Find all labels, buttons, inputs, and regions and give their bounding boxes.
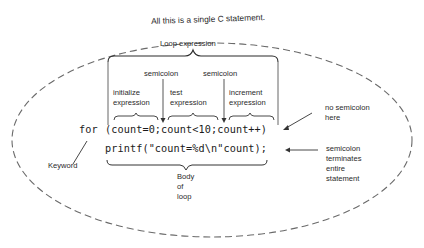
initialize-label-line2: expression bbox=[113, 98, 150, 107]
no-semicolon-arrow bbox=[286, 113, 312, 128]
loop-header-code: (count=0;count<10;count++) bbox=[105, 124, 267, 135]
terminates-label-line4: statement bbox=[326, 174, 359, 183]
increment-label-line2: expression bbox=[229, 98, 266, 107]
body-label-line2: of bbox=[177, 182, 183, 191]
for-keyword: for bbox=[79, 124, 98, 135]
terminates-label-line3: entire bbox=[326, 164, 345, 173]
loop-expression-label: Loop expression bbox=[160, 39, 216, 48]
semicolon-label-1: semicolon bbox=[144, 69, 178, 78]
loop-expression-brace bbox=[108, 50, 278, 62]
body-brace bbox=[107, 160, 267, 170]
test-label-line2: expression bbox=[170, 98, 207, 107]
test-label-line1: test bbox=[170, 88, 182, 97]
body-label-line3: loop bbox=[177, 192, 191, 201]
test-brace bbox=[168, 113, 218, 120]
no-semicolon-label-line2: here bbox=[325, 113, 340, 122]
loop-body-code: printf("count=%d\n"count); bbox=[105, 143, 267, 154]
c-for-statement-diagram: All this is a single C statement. Loop e… bbox=[0, 0, 424, 248]
increment-brace bbox=[229, 113, 274, 120]
increment-label-line1: increment bbox=[229, 88, 262, 97]
initialize-label-line1: initialize bbox=[113, 88, 140, 97]
body-label-line1: Body bbox=[177, 172, 194, 181]
keyword-label: Keyword bbox=[48, 161, 78, 170]
no-semicolon-label-line1: no semicolon bbox=[325, 103, 370, 112]
terminates-label-line1: semicolon bbox=[326, 144, 360, 153]
semicolon-label-2: semicolon bbox=[203, 69, 237, 78]
terminates-label-line2: terminates bbox=[326, 154, 361, 163]
initialize-brace bbox=[114, 113, 158, 120]
